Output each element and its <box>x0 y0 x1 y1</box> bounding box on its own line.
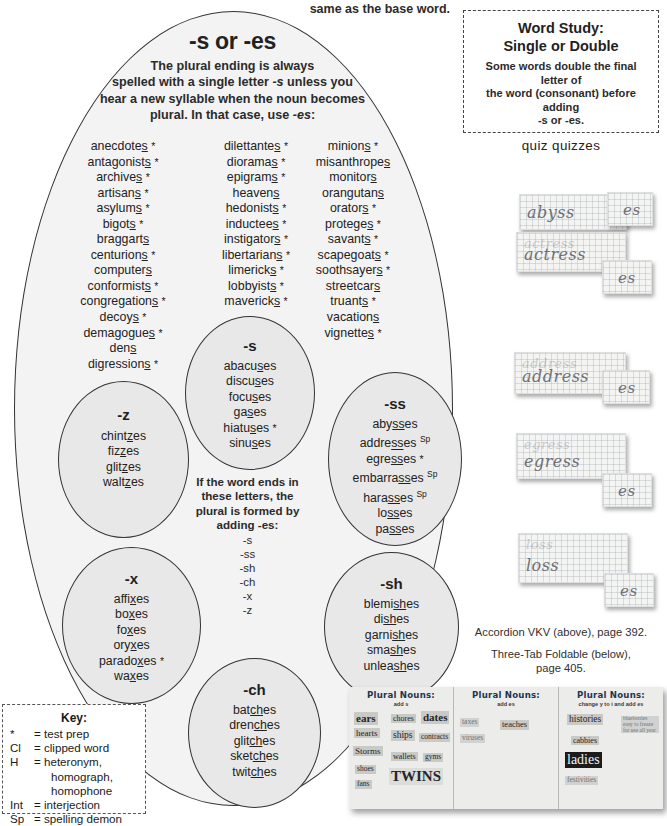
foldable-word-chip: Storms <box>353 746 383 756</box>
circle-words-sh: blemishesdishesgarnishessmashesunleashes <box>325 597 458 674</box>
circle-word-entry: fizzes <box>59 444 188 459</box>
circle-word-entry: discuses <box>186 374 314 389</box>
circle-word-entry: foxes <box>63 623 200 638</box>
rule-description-line: The plural ending is always <box>54 58 411 74</box>
key-definition-continuation: homograph, <box>3 770 145 784</box>
circle-word-entry: chintzes <box>59 429 188 444</box>
foldable-panel-subtitle: add s <box>353 701 449 707</box>
key-symbol: Cl <box>10 741 34 755</box>
center-rule-letter: -s <box>180 533 315 547</box>
vkv-card-suffix: es <box>618 379 636 397</box>
foldable-chip-group: earsheartsStormsshoesfanschoresdatesship… <box>353 710 449 792</box>
foldable-word-chip: ships <box>391 730 415 741</box>
foldable-word-chip: teaches <box>500 720 529 730</box>
foldable-word-chip: histories <box>567 714 603 725</box>
foldable-chip-group: historiesblueberries easy to freeze for … <box>563 710 659 792</box>
word-study-title: Word Study: Single or Double <box>464 19 658 55</box>
word-study-body: Some words double the final letter ofthe… <box>464 60 658 128</box>
circle-word-entry: drenches <box>189 718 320 733</box>
foldable-panel-subtitle: change y to i and add es <box>563 701 659 707</box>
key-definition: = spelling demon <box>34 812 122 826</box>
vkv-card-base-word: loss <box>526 556 559 575</box>
center-rule-text: If the word ends inthese letters, theplu… <box>180 475 315 617</box>
rule-description-line: plural. In that case, use -es: <box>54 107 411 123</box>
circle-word-entry: focuses <box>186 390 314 405</box>
vkv-card-suffix: es <box>623 201 641 219</box>
key-row: H= heteronym, <box>3 755 145 769</box>
vkv-card-base-word: actress <box>524 245 586 264</box>
center-rule-letter: -z <box>180 603 315 617</box>
foldable-word-chip: wallets <box>391 752 418 761</box>
circle-title-ch: -ch <box>189 681 320 698</box>
circle-word-entry: sketches <box>189 749 320 764</box>
circle-word-entry: paradoxes * <box>63 654 200 669</box>
circle-group-sh: -sh blemishesdishesgarnishessmashesunlea… <box>324 552 459 702</box>
key-symbol: Sp <box>10 812 34 826</box>
word-entry: asylums * <box>48 201 198 217</box>
center-rule-letter: -ss <box>180 547 315 561</box>
key-symbol: H <box>10 755 34 769</box>
word-entry: orators * <box>288 201 418 217</box>
foldable-word-chip: ears <box>354 712 378 725</box>
key-row: *= test prep <box>3 727 145 741</box>
word-study-title-line2: Single or Double <box>464 37 658 55</box>
circle-word-entry: blemishes <box>325 597 458 612</box>
word-entry: antagonists * <box>48 155 198 171</box>
word-entry: streetcars <box>288 279 418 295</box>
circle-word-entry: embarrasses Sp <box>329 467 461 487</box>
word-entry: truants * <box>288 294 418 310</box>
center-rule-letter: -ch <box>180 575 315 589</box>
circle-word-entry: glitches <box>189 734 320 749</box>
foldable-word-chip: contracts <box>419 733 450 742</box>
word-entry: conformists * <box>48 279 198 295</box>
circle-title-ss: -ss <box>329 395 461 412</box>
circle-word-entry: abysses <box>329 417 461 432</box>
center-rule-letter-list: -s-ss-sh-ch-x-z <box>180 533 315 617</box>
word-entry: minions * <box>288 139 418 155</box>
word-entry: centurions * <box>48 248 198 264</box>
key-row: Cl= clipped word <box>3 741 145 755</box>
circle-word-entry: losses <box>329 506 461 521</box>
word-entry: monitors <box>288 170 418 186</box>
word-entry: congregations * <box>48 294 198 310</box>
center-rule-line: If the word ends in <box>180 475 315 489</box>
vkv-card-base-word: abyss <box>527 203 575 222</box>
circle-title-z: -z <box>59 406 188 423</box>
center-rule-letter: -sh <box>180 561 315 575</box>
circle-word-entry: glitzes <box>59 460 188 475</box>
circle-word-entry: hiatuses * <box>186 421 314 436</box>
rule-description: The plural ending is alwaysspelled with … <box>54 58 411 124</box>
center-rule-line: these letters, the <box>180 489 315 503</box>
foldable-panel-title: Plural Nouns: <box>458 690 554 700</box>
foldable-word-chip: taxes <box>460 718 479 727</box>
foldable-panel-title: Plural Nouns: <box>563 690 659 700</box>
caption-accordion-vkv: Accordion VKV (above), page 392. <box>455 626 667 638</box>
circle-group-ch: -ch batchesdrenchesglitchessketchestwitc… <box>188 658 321 808</box>
circle-word-entry: waxes <box>63 669 200 684</box>
key-legend-box: Key: *= test prepCl= clipped wordH= hete… <box>2 704 146 814</box>
word-study-body-line: -s or -es. <box>471 114 651 128</box>
word-study-example: quiz quizzes <box>464 138 658 153</box>
vkv-card-base-word: address <box>522 367 589 386</box>
circle-group-s: -s abacusesdiscusesfocusesgaseshiatuses … <box>185 316 315 470</box>
vkv-card-suffix: es <box>620 582 638 600</box>
key-definition: = test prep <box>34 727 89 741</box>
word-entry: anecdotes * <box>48 139 198 155</box>
word-entry: braggarts <box>48 232 198 248</box>
foldable-word-chip: dates <box>421 711 449 724</box>
circle-word-entry: harasses Sp <box>329 487 461 507</box>
word-study-box: Word Study: Single or Double Some words … <box>463 10 659 133</box>
word-study-title-line1: Word Study: <box>464 19 658 37</box>
caption-line: Three-Tab Foldable (below), <box>455 648 667 662</box>
key-row: Int= interjection <box>3 798 145 812</box>
circle-word-entry: abacuses <box>186 359 314 374</box>
word-column-1: anecdotes *antagonists *archives *artisa… <box>48 139 198 372</box>
word-entry: artisans * <box>48 186 198 202</box>
circle-title-s: -s <box>186 337 314 354</box>
key-definition: = clipped word <box>34 741 109 755</box>
foldable-word-chip: festivities <box>565 776 598 785</box>
circle-word-entry: sinuses <box>186 436 314 451</box>
foldable-panel-subtitle: add es <box>458 701 554 707</box>
word-entry: orangutans <box>288 186 418 202</box>
center-rule-letter: -x <box>180 589 315 603</box>
